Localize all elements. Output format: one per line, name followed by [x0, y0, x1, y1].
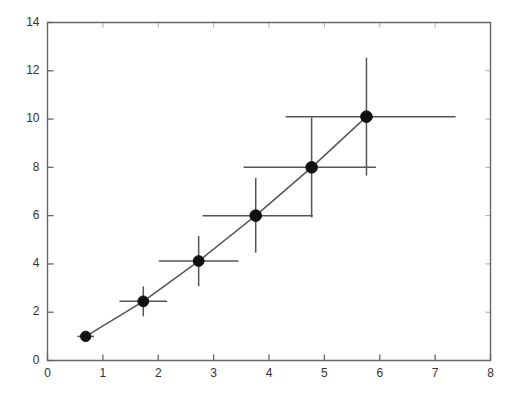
plot-background: [0, 0, 517, 406]
y-tick-label: 4: [33, 256, 40, 270]
x-tick-label: 2: [155, 366, 162, 380]
y-tick-label: 14: [26, 15, 40, 29]
x-tick-label: 0: [44, 366, 51, 380]
scatter-plot-with-errorbars: 02468101214012345678: [0, 0, 517, 406]
y-tick-label: 12: [26, 63, 40, 77]
data-point-marker: [361, 111, 373, 123]
y-tick-label: 2: [33, 304, 40, 318]
x-tick-label: 1: [100, 366, 107, 380]
y-tick-label: 6: [33, 208, 40, 222]
x-tick-label: 8: [487, 366, 494, 380]
x-tick-label: 4: [266, 366, 273, 380]
x-tick-label: 7: [432, 366, 439, 380]
x-tick-label: 5: [321, 366, 328, 380]
y-tick-label: 8: [33, 160, 40, 174]
x-tick-label: 3: [210, 366, 217, 380]
data-point-marker: [193, 256, 204, 267]
data-point-marker: [250, 210, 262, 222]
data-point-marker: [138, 296, 149, 307]
chart-container: 02468101214012345678: [0, 0, 517, 406]
data-point-marker: [306, 162, 318, 174]
x-tick-label: 6: [376, 366, 383, 380]
y-tick-label: 0: [33, 353, 40, 367]
y-tick-label: 10: [26, 111, 40, 125]
data-point-marker: [81, 331, 91, 341]
